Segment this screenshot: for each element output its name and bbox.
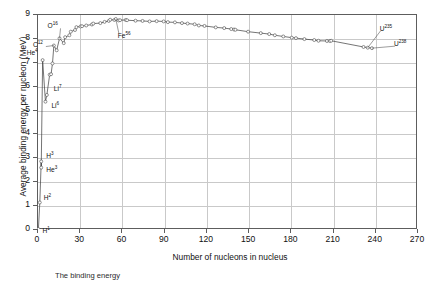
data-point-marker <box>40 166 43 169</box>
y-axis-tick <box>33 181 37 182</box>
data-point-marker <box>214 26 217 29</box>
figure-caption: The binding energy <box>55 271 385 282</box>
y-axis-tick-label: 1 <box>18 199 30 209</box>
x-axis-tick-label: 30 <box>64 234 94 244</box>
data-point-marker <box>155 20 158 23</box>
data-point-marker <box>166 21 169 24</box>
nuclide-label-h3: H3 <box>46 153 53 160</box>
y-axis-tick-label: 6 <box>18 80 30 90</box>
data-point-marker <box>81 25 84 28</box>
y-axis-tick <box>33 205 37 206</box>
data-point-marker <box>45 93 48 96</box>
y-axis-tick <box>33 110 37 111</box>
data-point-marker <box>40 160 43 163</box>
data-point-marker <box>282 35 285 38</box>
data-point-marker <box>162 20 165 23</box>
y-axis-tick <box>33 133 37 134</box>
nuclide-label-fe56: Fe56 <box>118 33 131 40</box>
x-axis-tick <box>37 229 38 233</box>
data-point-marker <box>109 18 112 21</box>
data-point-marker <box>186 22 189 25</box>
nuclide-label-o16: O16 <box>48 23 58 30</box>
x-axis-tick <box>164 229 165 233</box>
x-axis-tick-label: 210 <box>318 234 348 244</box>
data-point-marker <box>126 19 129 22</box>
y-axis-tick-label: 2 <box>18 175 30 185</box>
data-point-marker <box>234 28 237 31</box>
data-point-marker <box>197 24 200 27</box>
data-point-marker <box>180 22 183 25</box>
y-axis-tick <box>33 157 37 158</box>
data-point-marker <box>223 27 226 30</box>
nuclide-label-c12: C12 <box>33 42 43 49</box>
data-point-marker <box>313 39 316 42</box>
x-axis-tick <box>121 229 122 233</box>
x-axis-tick-label: 240 <box>360 234 390 244</box>
leader-line-u238 <box>372 46 395 48</box>
curve-line <box>38 19 372 229</box>
data-point-marker <box>99 22 102 25</box>
data-point-marker <box>74 29 77 32</box>
y-axis-tick-label: 4 <box>18 127 30 137</box>
x-axis-tick-label: 60 <box>106 234 136 244</box>
data-point-marker <box>64 36 67 39</box>
data-point-marker <box>362 45 365 48</box>
x-axis-tick <box>248 229 249 233</box>
data-point-marker <box>103 20 106 23</box>
leader-line-u235 <box>368 31 381 48</box>
data-point-marker <box>230 28 233 31</box>
data-point-marker <box>203 24 206 27</box>
y-axis-tick <box>33 86 37 87</box>
data-point-marker <box>51 62 54 65</box>
x-axis-tick <box>417 229 418 233</box>
nuclide-label-h2: H2 <box>44 195 51 202</box>
x-axis-title: Number of nucleons in nucleus <box>34 252 426 262</box>
nuclide-label-he3: He3 <box>46 167 57 174</box>
nuclide-label-u238: U238 <box>394 41 406 48</box>
data-point-marker <box>68 34 71 37</box>
binding-energy-curve <box>37 14 417 229</box>
data-point-marker <box>38 201 41 204</box>
y-axis-tick-label: 5 <box>18 104 30 114</box>
data-point-marker <box>44 100 47 103</box>
data-point-marker <box>75 26 78 29</box>
data-point-marker <box>273 34 276 37</box>
data-point-marker <box>247 30 250 33</box>
data-point-marker <box>173 21 176 24</box>
data-point-marker <box>41 59 44 62</box>
data-point-marker <box>294 37 297 40</box>
x-axis-tick-label: 180 <box>275 234 305 244</box>
nuclide-label-he4: He4 <box>27 50 38 57</box>
y-axis-tick-label: 9 <box>18 8 30 18</box>
x-axis-tick-label: 0 <box>22 234 52 244</box>
nuclide-label-li6: Li6 <box>51 103 59 110</box>
x-axis-tick <box>206 229 207 233</box>
data-point-marker <box>317 39 320 42</box>
y-axis-tick <box>33 38 37 39</box>
x-axis-tick <box>375 229 376 233</box>
x-axis-tick-label: 120 <box>191 234 221 244</box>
data-point-marker <box>303 38 306 41</box>
data-point-marker <box>69 30 72 33</box>
data-point-marker <box>141 19 144 22</box>
binding-energy-chart-figure: Average binding energy per nucleon (MeV)… <box>0 0 429 282</box>
data-point-marker <box>193 23 196 26</box>
data-point-marker <box>50 73 53 76</box>
data-point-marker <box>134 19 137 22</box>
data-point-marker <box>62 42 65 45</box>
x-axis-tick-label: 90 <box>149 234 179 244</box>
nuclide-label-h1: H1 <box>42 228 49 235</box>
y-axis-tick-label: 8 <box>18 32 30 42</box>
data-point-marker <box>85 24 88 27</box>
nuclide-label-u235: U235 <box>380 26 392 33</box>
x-axis-tick <box>333 229 334 233</box>
data-point-marker <box>55 49 58 52</box>
y-axis-tick <box>33 14 37 15</box>
data-point-marker <box>330 39 333 42</box>
data-point-marker <box>290 36 293 39</box>
data-point-marker <box>268 33 271 36</box>
y-axis-tick <box>33 229 37 230</box>
data-point-marker <box>119 19 122 22</box>
y-axis-tick-label: 0 <box>18 223 30 233</box>
x-axis-tick-label: 150 <box>233 234 263 244</box>
